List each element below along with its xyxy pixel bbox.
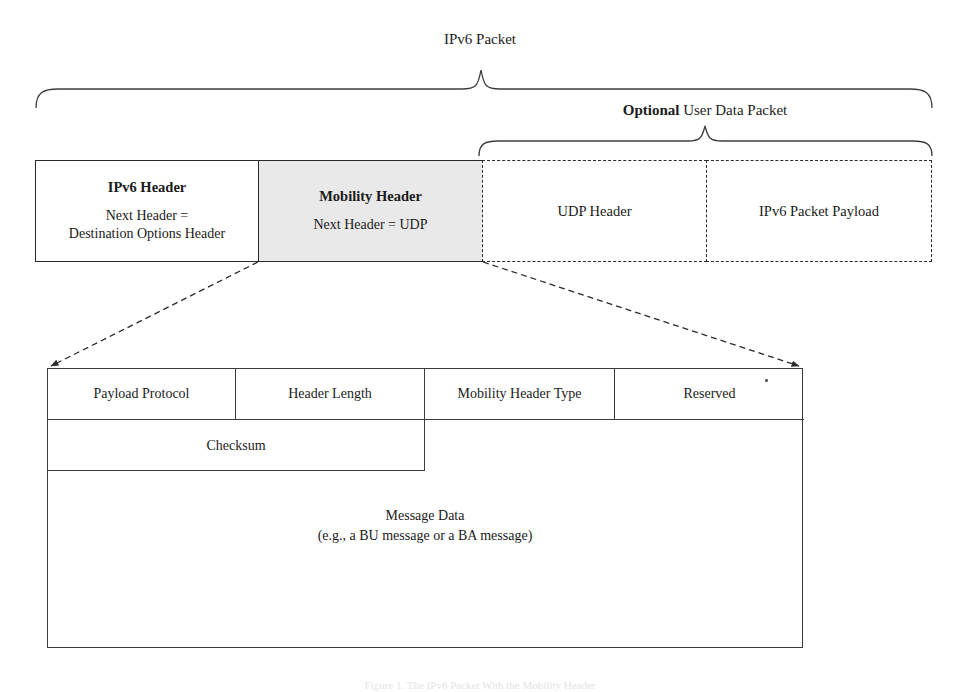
label-ipv6-packet: IPv6 Packet — [0, 30, 960, 49]
box-mobility-header-title: Mobility Header — [319, 188, 422, 205]
label-optional-rest: User Data Packet — [679, 102, 787, 118]
message-data-line1: Message Data — [47, 506, 803, 526]
box-udp-header-label: UDP Header — [558, 203, 632, 220]
box-ipv6-header-sub-line1: Next Header = — [69, 207, 225, 225]
box-ipv6-header[interactable]: IPv6 Header Next Header = Destination Op… — [35, 160, 259, 262]
box-ipv6-packet-payload-label: IPv6 Packet Payload — [759, 203, 879, 220]
box-udp-header[interactable]: UDP Header — [482, 160, 707, 262]
box-ipv6-header-sub-line2: Destination Options Header — [69, 225, 225, 243]
brace-optional-user-data-packet — [479, 126, 932, 156]
cell-reserved[interactable]: Reserved — [615, 369, 804, 419]
divider-col-3 — [614, 369, 615, 419]
divider-col-1 — [235, 369, 236, 419]
box-mobility-header-sub-line1: Next Header = UDP — [313, 216, 427, 234]
divider-row-2 — [48, 470, 424, 471]
cell-header-length[interactable]: Header Length — [236, 369, 424, 419]
box-ipv6-packet-payload[interactable]: IPv6 Packet Payload — [706, 160, 932, 262]
divider-row-1 — [48, 419, 804, 420]
box-ipv6-header-title: IPv6 Header — [108, 179, 187, 196]
cell-checksum[interactable]: Checksum — [48, 420, 424, 471]
box-ipv6-header-subtitle: Next Header = Destination Options Header — [69, 207, 225, 243]
scan-speck — [765, 379, 768, 382]
cell-payload-protocol[interactable]: Payload Protocol — [48, 369, 235, 419]
box-mobility-header[interactable]: Mobility Header Next Header = UDP — [258, 160, 483, 262]
connector-right-dashed — [483, 262, 799, 366]
label-optional-bold: Optional — [623, 102, 680, 118]
connector-left-dashed — [51, 262, 258, 366]
cell-mobility-header-type[interactable]: Mobility Header Type — [425, 369, 614, 419]
cell-message-data[interactable]: Message Data (e.g., a BU message or a BA… — [47, 506, 803, 547]
figure-caption: Figure 1. The IPv6 Packet With the Mobil… — [0, 679, 960, 691]
message-data-line2: (e.g., a BU message or a BA message) — [47, 526, 803, 546]
label-optional-user-data-packet: Optional User Data Packet — [478, 101, 932, 120]
